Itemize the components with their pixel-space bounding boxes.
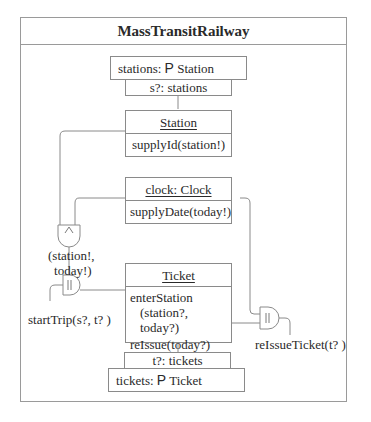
reissue-ticket-label: reIssueTicket(t? )	[255, 337, 346, 352]
station-class-box[interactable]: Station supplyId(station!)	[125, 110, 232, 157]
powerset-symbol: P	[165, 60, 174, 76]
and-gate-output-label: (station!, today!)	[48, 248, 95, 278]
enter-station-params: (station?, today?)	[130, 305, 225, 335]
powerset-symbol: P	[157, 372, 166, 388]
and-output-line1: (station!,	[48, 248, 95, 263]
and-output-line2: today!)	[48, 263, 95, 278]
ticket-class-box[interactable]: Ticket enterStation (station?, today?) r…	[125, 263, 232, 343]
clock-object-name: clock: Clock	[145, 182, 211, 197]
stations-set-box[interactable]: stations: P Station	[110, 56, 247, 80]
tickets-set-type: Ticket	[166, 373, 202, 388]
ticket-class-name: Ticket	[162, 268, 195, 283]
stations-set-prefix: stations:	[118, 61, 165, 76]
station-class-name: Station	[160, 115, 197, 130]
enter-station-name: enterStation	[130, 290, 225, 305]
supply-id-operation[interactable]: supplyId(station!)	[126, 134, 231, 156]
supply-date-operation[interactable]: supplyDate(today!)	[126, 201, 231, 223]
station-selector-box[interactable]: s?: stations	[125, 79, 232, 96]
start-trip-label: startTrip(s?, t? )	[28, 312, 111, 327]
tickets-set-box[interactable]: tickets: P Ticket	[108, 368, 245, 392]
enter-station-operation[interactable]: enterStation (station?, today?)	[126, 287, 231, 335]
reissue-operation[interactable]: reIssue(today?)	[126, 335, 231, 353]
clock-object-box[interactable]: clock: Clock supplyDate(today!)	[125, 177, 232, 224]
diagram-canvas: MassTransitRailway	[0, 0, 371, 422]
ticket-selector-box[interactable]: t?: tickets	[124, 352, 231, 369]
system-title: MassTransitRailway	[20, 17, 347, 45]
ticket-selector-label: t?: tickets	[152, 353, 202, 368]
stations-set-type: Station	[174, 61, 214, 76]
station-selector-label: s?: stations	[150, 80, 207, 95]
tickets-set-prefix: tickets:	[116, 373, 157, 388]
